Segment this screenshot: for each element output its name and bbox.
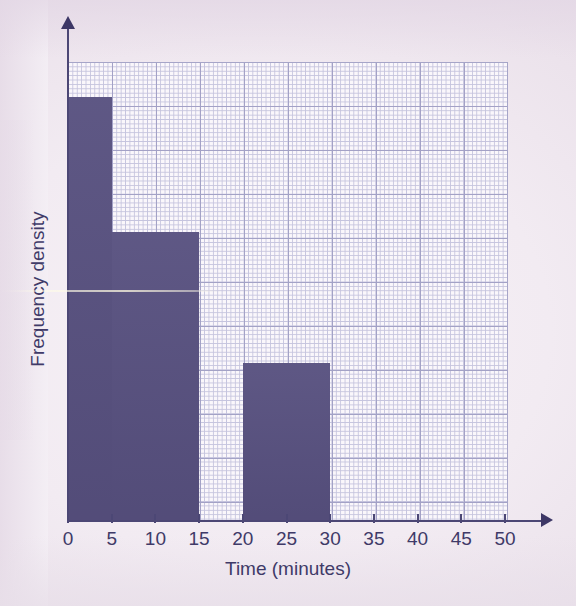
- x-axis-tick-label: 0: [48, 528, 88, 550]
- x-axis-tick: [154, 514, 156, 523]
- x-axis-tick-label: 5: [92, 528, 132, 550]
- y-axis-title: Frequency density: [27, 189, 49, 389]
- x-axis-tick: [417, 514, 419, 523]
- x-axis-tick: [286, 514, 288, 523]
- histogram-bar: [112, 232, 199, 521]
- x-axis-tick-label: 30: [310, 528, 350, 550]
- x-axis-tick: [504, 514, 506, 523]
- x-axis-tick-label: 45: [441, 528, 481, 550]
- arrow-right-icon: [541, 513, 553, 527]
- x-axis-tick-label: 20: [223, 528, 263, 550]
- x-axis-tick-label: 25: [267, 528, 307, 550]
- y-axis-line: [67, 28, 69, 522]
- x-axis-tick: [242, 514, 244, 523]
- x-axis-tick: [460, 514, 462, 523]
- x-axis-title: Time (minutes): [0, 558, 576, 580]
- x-axis-tick: [373, 514, 375, 523]
- x-axis-tick-label: 35: [354, 528, 394, 550]
- x-axis-tick: [198, 514, 200, 523]
- x-axis-line: [68, 520, 543, 522]
- histogram-bar: [243, 363, 330, 521]
- x-axis-tick: [67, 514, 69, 523]
- x-axis-tick: [329, 514, 331, 523]
- arrow-up-icon: [61, 16, 75, 29]
- paper-edge-shading-top: [0, 0, 576, 58]
- x-axis-tick-label: 50: [485, 528, 525, 550]
- x-axis-tick-label: 10: [135, 528, 175, 550]
- histogram-bar: [68, 97, 112, 521]
- histogram-figure: 05101520253035404550 Time (minutes) Freq…: [0, 0, 576, 606]
- x-axis-tick-label: 15: [179, 528, 219, 550]
- x-axis-tick-label: 40: [398, 528, 438, 550]
- x-axis-tick: [111, 514, 113, 523]
